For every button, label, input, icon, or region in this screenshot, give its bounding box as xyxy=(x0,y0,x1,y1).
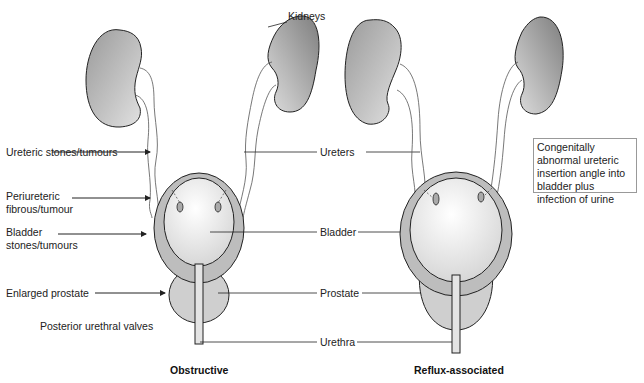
label-bladder: Bladder xyxy=(320,226,356,239)
reflux-panel xyxy=(345,17,563,353)
cause-bladder-stones: Bladder stones/tumours xyxy=(6,226,86,252)
cause-posterior-urethral-valves: Posterior urethral valves xyxy=(40,320,153,333)
label-prostate: Prostate xyxy=(320,287,359,300)
panel-title-reflux: Reflux-associated xyxy=(414,364,504,376)
cause-enlarged-prostate: Enlarged prostate xyxy=(6,287,89,300)
label-kidneys: Kidneys xyxy=(288,10,325,23)
cause-periureteric: Periureteric fibrous/tumour xyxy=(6,190,86,216)
panel-title-obstructive: Obstructive xyxy=(170,364,228,376)
label-ureters: Ureters xyxy=(320,146,354,159)
obstructive-panel xyxy=(52,16,319,344)
reflux-note-box: Congenitally abnormal ureteric insertion… xyxy=(533,138,637,193)
label-urethra: Urethra xyxy=(320,336,355,349)
cause-ureteric-stones: Ureteric stones/tumours xyxy=(6,146,117,159)
